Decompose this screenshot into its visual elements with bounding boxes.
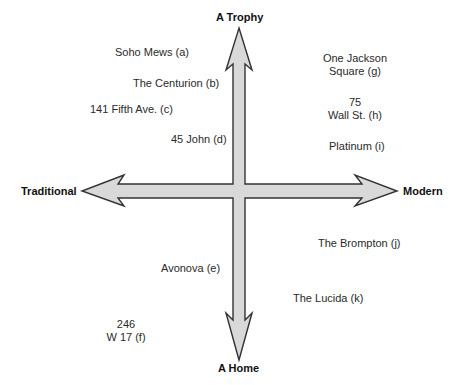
item-label-h: 75 Wall St. (h) <box>326 96 384 122</box>
item-label-a: Soho Mews (a) <box>115 46 189 59</box>
item-label-j: The Brompton (j) <box>318 237 401 250</box>
axis-label-bottom: A Home <box>218 362 259 374</box>
item-label-b: The Centurion (b) <box>133 77 219 90</box>
item-label-h-line2: Wall St. (h) <box>326 109 384 122</box>
axis-label-top: A Trophy <box>216 11 263 23</box>
item-label-g: One Jackson Square (g) <box>320 52 390 78</box>
item-label-e: Avonova (e) <box>161 262 220 275</box>
item-label-i: Platinum (i) <box>329 140 385 153</box>
item-label-c: 141 Fifth Ave. (c) <box>90 103 173 116</box>
item-label-g-line2: Square (g) <box>320 65 390 78</box>
item-label-h-line1: 75 <box>326 96 384 109</box>
item-label-f: 246 W 17 (f) <box>106 318 146 344</box>
item-label-f-line1: 246 <box>106 318 146 331</box>
item-label-f-line2: W 17 (f) <box>106 331 146 344</box>
axis-label-left: Traditional <box>21 185 77 197</box>
axis-label-right: Modern <box>403 185 443 197</box>
item-label-g-line1: One Jackson <box>320 52 390 65</box>
item-label-d: 45 John (d) <box>171 133 227 146</box>
item-label-k: The Lucida (k) <box>293 292 363 305</box>
